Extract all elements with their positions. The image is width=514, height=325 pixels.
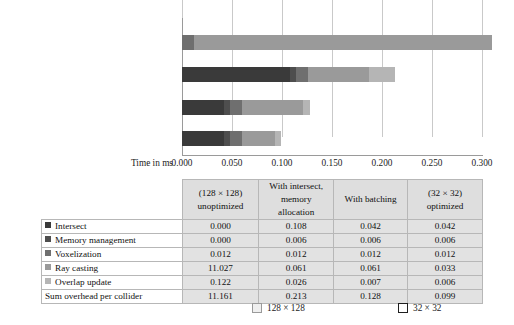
data-table-head: (128 × 128)unoptimizedWith intersect,mem… xyxy=(42,180,483,220)
data-table-header-row: (128 × 128)unoptimizedWith intersect,mem… xyxy=(42,180,483,220)
series-swatch-icon xyxy=(45,222,51,228)
chart-bar-segment xyxy=(182,100,224,115)
data-table-column-header: (128 × 128)unoptimized xyxy=(182,180,259,220)
table-cell-value: 0.061 xyxy=(334,262,408,276)
chart-bar xyxy=(182,100,310,115)
table-cell-value: 0.099 xyxy=(408,290,483,304)
legend-item-label: 32 × 32 xyxy=(413,303,442,313)
table-row-label-text: Ray casting xyxy=(55,263,98,273)
table-cell-value: 0.006 xyxy=(259,234,334,248)
table-cell-value: 0.042 xyxy=(334,220,408,234)
chart-bar-segment xyxy=(242,100,303,115)
chart-bar-segment xyxy=(230,131,242,146)
chart-bar-segment xyxy=(182,35,194,50)
chart-bar-segment xyxy=(182,67,290,82)
figure-bar-chart-with-data-table: (128 × 128) unoptimized With intersect, … xyxy=(0,0,514,325)
table-row-label: Ray casting xyxy=(42,262,183,276)
table-row-label-text: Sum overhead per collider xyxy=(45,291,142,301)
table-row-label: Intersect xyxy=(42,220,183,234)
chart-area: (128 × 128) unoptimized With intersect, … xyxy=(0,0,514,175)
table-cell-value: 11.027 xyxy=(182,262,259,276)
table-cell-value: 0.006 xyxy=(334,234,408,248)
chart-legend: 128 × 128 32 × 32 xyxy=(0,303,514,321)
series-swatch-icon xyxy=(45,278,51,284)
table-cell-value: 0.000 xyxy=(182,220,259,234)
table-row: Intersect0.0000.1080.0420.042 xyxy=(42,220,483,234)
table-cell-value: 0.128 xyxy=(334,290,408,304)
table-cell-value: 0.012 xyxy=(408,248,483,262)
table-row: Overlap update0.1220.0260.0070.006 xyxy=(42,276,483,290)
chart-x-axis-line xyxy=(182,155,483,156)
data-table-column-header: With batching xyxy=(334,180,408,220)
chart-bar-segment xyxy=(275,131,281,146)
table-cell-value: 0.213 xyxy=(259,290,334,304)
table-row: Sum overhead per collider11.1610.2130.12… xyxy=(42,290,483,304)
legend-item-128x128: 128 × 128 xyxy=(252,303,305,313)
chart-bar-segment xyxy=(308,67,369,82)
table-cell-value: 0.026 xyxy=(259,276,334,290)
series-swatch-icon xyxy=(45,250,51,256)
data-table-column-header: (32 × 32) optimized xyxy=(408,180,483,220)
column-header-line: With batching xyxy=(337,193,404,206)
chart-bar-segment xyxy=(369,67,395,82)
chart-bar-segment xyxy=(230,100,242,115)
table-cell-value: 0.012 xyxy=(259,248,334,262)
chart-x-tick-label: 0.300 xyxy=(452,158,512,168)
table-row-label: Sum overhead per collider xyxy=(42,290,183,304)
column-header-line: memory allocation xyxy=(262,193,330,219)
table-row-label: Voxelization xyxy=(42,248,183,262)
table-cell-value: 0.108 xyxy=(259,220,334,234)
series-swatch-icon xyxy=(45,236,51,242)
table-cell-value: 0.007 xyxy=(334,276,408,290)
chart-gridline xyxy=(482,0,483,137)
legend-item-label: 128 × 128 xyxy=(267,303,305,313)
data-table-column-header: With intersect,memory allocation xyxy=(259,180,334,220)
table-row-label: Overlap update xyxy=(42,276,183,290)
column-header-line: (128 × 128) xyxy=(186,187,256,200)
column-header-line: unoptimized xyxy=(186,200,256,213)
data-table: (128 × 128)unoptimizedWith intersect,mem… xyxy=(41,179,483,304)
chart-bar xyxy=(182,131,281,146)
table-cell-value: 0.061 xyxy=(259,262,334,276)
chart-bar-segment xyxy=(182,131,224,146)
table-row-label-text: Intersect xyxy=(55,221,87,231)
table-cell-value: 0.000 xyxy=(182,234,259,248)
table-row-label-text: Overlap update xyxy=(55,277,111,287)
table-row: Memory management0.0000.0060.0060.006 xyxy=(42,234,483,248)
table-cell-value: 0.122 xyxy=(182,276,259,290)
column-header-line: (32 × 32) optimized xyxy=(411,187,479,213)
legend-swatch-icon xyxy=(398,303,408,313)
table-cell-value: 0.006 xyxy=(408,234,483,248)
data-table-wrapper: (128 × 128)unoptimizedWith intersect,mem… xyxy=(41,179,483,304)
table-cell-value: 11.161 xyxy=(182,290,259,304)
table-row: Ray casting11.0270.0610.0610.033 xyxy=(42,262,483,276)
table-cell-value: 0.012 xyxy=(182,248,259,262)
table-row-label: Memory management xyxy=(42,234,183,248)
chart-bar-segment xyxy=(194,35,492,50)
chart-bar xyxy=(182,35,492,50)
chart-bar-segment xyxy=(242,131,275,146)
table-cell-value: 0.012 xyxy=(334,248,408,262)
chart-bar-segment xyxy=(303,100,310,115)
data-table-corner-cell xyxy=(42,180,183,220)
table-cell-value: 0.006 xyxy=(408,276,483,290)
column-header-line: With intersect, xyxy=(262,180,330,193)
chart-gridline xyxy=(432,0,433,137)
table-row: Voxelization0.0120.0120.0120.012 xyxy=(42,248,483,262)
chart-bar xyxy=(182,67,395,82)
table-cell-value: 0.042 xyxy=(408,220,483,234)
table-row-label-text: Voxelization xyxy=(55,249,101,259)
chart-bar-segment xyxy=(296,67,308,82)
legend-swatch-icon xyxy=(252,303,262,313)
table-cell-value: 0.033 xyxy=(408,262,483,276)
table-row-label-text: Memory management xyxy=(55,235,136,245)
data-table-body: Intersect0.0000.1080.0420.042Memory mana… xyxy=(42,220,483,304)
legend-item-32x32: 32 × 32 xyxy=(398,303,442,313)
series-swatch-icon xyxy=(45,264,51,270)
